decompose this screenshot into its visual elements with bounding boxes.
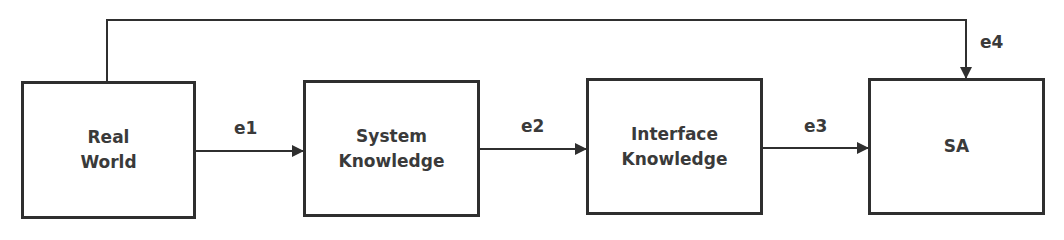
node-label: Knowledge — [339, 149, 445, 174]
edge-label-e4: e4 — [980, 32, 1003, 52]
node-label: SA — [944, 134, 969, 159]
edge-label-e3: e3 — [804, 116, 827, 136]
node-label: Real — [80, 125, 136, 150]
node-sa: SA — [868, 78, 1045, 215]
node-label: System — [339, 124, 445, 149]
node-system-knowledge: SystemKnowledge — [303, 80, 480, 217]
edge-label-e2: e2 — [521, 116, 544, 136]
node-interface-knowledge: InterfaceKnowledge — [586, 78, 763, 215]
node-label: Interface — [622, 122, 728, 147]
edge-label-e1: e1 — [234, 118, 257, 138]
node-real-world: RealWorld — [21, 81, 196, 219]
edge-e4 — [107, 20, 966, 82]
node-label: Knowledge — [622, 147, 728, 172]
node-label: World — [80, 150, 136, 175]
